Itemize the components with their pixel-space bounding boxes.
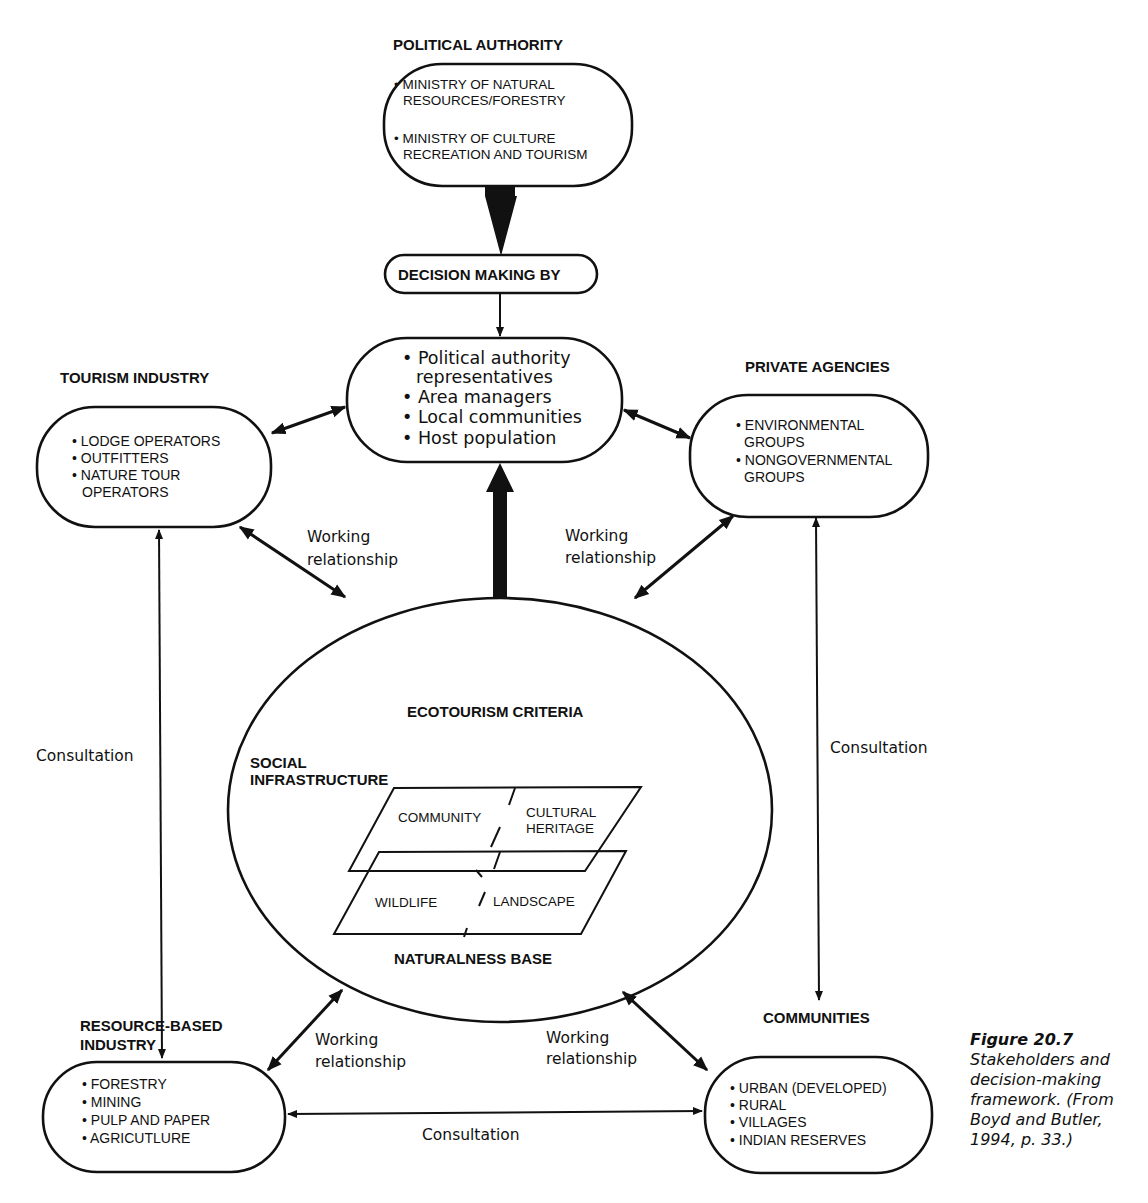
- resource-item: • PULP AND PAPER: [82, 1112, 210, 1128]
- arrow-tourism-decision: [272, 407, 345, 433]
- arrow-resource-communities: [288, 1111, 702, 1114]
- private-agency-item: • NONGOVERNMENTAL: [736, 452, 893, 468]
- heritage-label: HERITAGE: [526, 821, 594, 836]
- decision-making-node: DECISION MAKING BY: [385, 255, 597, 293]
- resource-industry-title: RESOURCE-BASED: [80, 1017, 223, 1034]
- working-relationship-label-cont: relationship: [546, 1050, 637, 1068]
- political-authority-title: POLITICAL AUTHORITY: [393, 36, 563, 53]
- consultation-label: Consultation: [422, 1126, 520, 1144]
- community-item: • RURAL: [730, 1097, 786, 1113]
- arrow-criteria-to-decision: [486, 463, 514, 599]
- arrow-private-decision: [624, 410, 690, 438]
- private-agency-item-cont: GROUPS: [744, 469, 805, 485]
- decision-making-title: DECISION MAKING BY: [398, 266, 561, 283]
- caption-line: decision-making: [970, 1070, 1101, 1089]
- political-authority-item: • MINISTRY OF NATURAL: [394, 77, 555, 92]
- ecotourism-title: ECOTOURISM CRITERIA: [407, 703, 584, 720]
- resource-item: • MINING: [82, 1094, 141, 1110]
- decision-maker-item: • Local communities: [402, 407, 582, 427]
- arrow-private-communities: [816, 518, 819, 1000]
- private-agencies-title: PRIVATE AGENCIES: [745, 358, 890, 375]
- community-label: COMMUNITY: [398, 810, 481, 825]
- decision-maker-item: • Host population: [402, 428, 556, 448]
- tourism-item-cont: OPERATORS: [82, 484, 169, 500]
- community-item: • VILLAGES: [730, 1114, 807, 1130]
- working-relationship-label: Working: [546, 1029, 609, 1047]
- working-relationship-label-cont: relationship: [565, 549, 656, 567]
- wildlife-label: WILDLIFE: [375, 895, 437, 910]
- landscape-label: LANDSCAPE: [493, 894, 575, 909]
- ecotourism-criteria-node: ECOTOURISM CRITERIA SOCIAL INFRASTRUCTUR…: [228, 598, 772, 1022]
- consultation-label: Consultation: [36, 747, 134, 765]
- working-relationship-label-cont: relationship: [315, 1053, 406, 1071]
- private-agency-item-cont: GROUPS: [744, 434, 805, 450]
- caption-line: Boyd and Butler,: [970, 1110, 1103, 1129]
- naturalness-base-label: NATURALNESS BASE: [394, 950, 552, 967]
- resource-item: • AGRICUTLURE: [82, 1130, 190, 1146]
- caption-line: 1994, p. 33.): [970, 1130, 1073, 1149]
- working-relationship-label-cont: relationship: [307, 551, 398, 569]
- decision-makers-node: • Political authority representatives • …: [347, 338, 622, 462]
- community-item: • INDIAN RESERVES: [730, 1132, 866, 1148]
- social-label: SOCIAL: [250, 754, 307, 771]
- political-authority-item-cont: RESOURCES/FORESTRY: [403, 93, 566, 108]
- social-label-cont: INFRASTRUCTURE: [250, 771, 388, 788]
- caption-line: Stakeholders and: [970, 1050, 1110, 1069]
- tourism-industry-node: TOURISM INDUSTRY • LODGE OPERATORS • OUT…: [37, 369, 271, 527]
- tourism-industry-title: TOURISM INDUSTRY: [60, 369, 209, 386]
- resource-item: • FORESTRY: [82, 1076, 167, 1092]
- resource-industry-title-cont: INDUSTRY: [80, 1036, 156, 1053]
- cultural-label: CULTURAL: [526, 805, 597, 820]
- private-agency-item: • ENVIRONMENTAL: [736, 417, 865, 433]
- arrow-authority-to-decision: [485, 186, 517, 256]
- decision-maker-item-cont: representatives: [416, 367, 553, 387]
- decision-maker-item: • Area managers: [402, 387, 552, 407]
- private-agencies-node: PRIVATE AGENCIES • ENVIRONMENTAL GROUPS …: [690, 358, 928, 517]
- working-relationship-label: Working: [565, 527, 628, 545]
- tourism-item: • LODGE OPERATORS: [72, 433, 220, 449]
- caption-line: framework. (From: [970, 1090, 1114, 1109]
- political-authority-item: • MINISTRY OF CULTURE: [394, 131, 556, 146]
- tourism-item: • OUTFITTERS: [72, 450, 169, 466]
- community-item: • URBAN (DEVELOPED): [730, 1080, 887, 1096]
- communities-node: COMMUNITIES • URBAN (DEVELOPED) • RURAL …: [705, 1009, 932, 1173]
- figure-number: Figure 20.7: [970, 1030, 1140, 1050]
- consultation-label: Consultation: [830, 739, 928, 757]
- decision-maker-item: • Political authority: [402, 348, 571, 368]
- political-authority-node: POLITICAL AUTHORITY • MINISTRY OF NATURA…: [384, 36, 632, 186]
- figure-caption: Figure 20.7 Stakeholders and decision-ma…: [970, 1030, 1140, 1150]
- stakeholder-diagram: POLITICAL AUTHORITY • MINISTRY OF NATURA…: [0, 0, 1148, 1203]
- working-relationship-label: Working: [315, 1031, 378, 1049]
- arrow-tourism-resource: [159, 530, 162, 1058]
- resource-industry-node: RESOURCE-BASED INDUSTRY • FORESTRY • MIN…: [43, 1017, 285, 1172]
- working-relationship-label: Working: [307, 528, 370, 546]
- tourism-item: • NATURE TOUR: [72, 467, 180, 483]
- communities-title: COMMUNITIES: [763, 1009, 870, 1026]
- political-authority-item-cont: RECREATION AND TOURISM: [403, 147, 588, 162]
